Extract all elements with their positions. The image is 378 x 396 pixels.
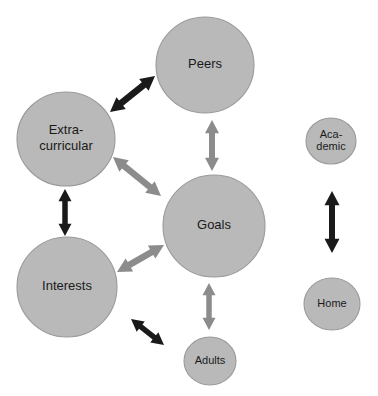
node-goals-label: Goals	[197, 217, 231, 232]
node-academic-label-line-1: demic	[316, 140, 346, 152]
node-extracurricular-label-line-1: curricular	[39, 138, 93, 153]
diagram-canvas: PeersExtra-curricularGoalsInterestsAdult…	[0, 0, 378, 396]
node-home[interactable]: Home	[304, 278, 360, 330]
node-academic[interactable]: Aca-demic	[306, 118, 356, 164]
arrow-academic-home	[325, 191, 340, 253]
node-interests-label: Interests	[42, 278, 92, 293]
node-adults-label-line-0: Adults	[195, 354, 226, 366]
node-peers[interactable]: Peers	[156, 17, 254, 113]
node-goals-label-line-0: Goals	[197, 217, 231, 232]
node-academic-label: Aca-demic	[316, 127, 346, 152]
arrow-peers-goals	[205, 120, 219, 171]
node-home-label-line-0: Home	[317, 297, 346, 309]
node-interests[interactable]: Interests	[17, 237, 117, 337]
arrow-goals-adults	[203, 283, 216, 330]
arrow-extracurricular-goals	[113, 157, 161, 196]
node-adults[interactable]: Adults	[184, 337, 236, 385]
node-interests-label-line-0: Interests	[42, 278, 92, 293]
node-peers-label: Peers	[188, 56, 222, 71]
arrow-extracurricular-peers	[110, 76, 155, 112]
node-home-label: Home	[317, 297, 346, 309]
node-goals[interactable]: Goals	[163, 175, 265, 277]
node-peers-label-line-0: Peers	[188, 56, 222, 71]
arrow-extracurricular-interests	[59, 189, 72, 236]
arrow-interests-goals	[117, 245, 164, 272]
concept-map-diagram: PeersExtra-curricularGoalsInterestsAdult…	[0, 0, 378, 396]
node-academic-label-line-0: Aca-	[320, 127, 343, 139]
node-extracurricular-label-line-0: Extra-	[49, 123, 84, 138]
arrow-interests-adults	[131, 319, 164, 345]
node-adults-label: Adults	[195, 354, 226, 366]
node-extracurricular[interactable]: Extra-curricular	[17, 92, 115, 186]
